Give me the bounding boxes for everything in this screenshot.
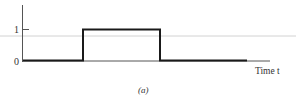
pulse-plot: 1 0 Time t (a) bbox=[0, 0, 296, 100]
pulse-diagram: 1 0 Time t (a) bbox=[0, 0, 296, 100]
y-tick-label-0: 0 bbox=[14, 56, 19, 67]
figure-caption: (a) bbox=[138, 85, 149, 95]
y-tick-label-1: 1 bbox=[14, 24, 19, 35]
x-axis-label: Time t bbox=[255, 66, 280, 76]
pulse-signal bbox=[23, 30, 247, 61]
